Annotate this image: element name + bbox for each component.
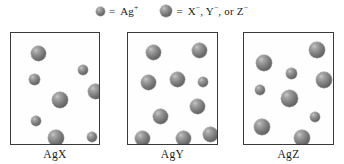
legend-anion-x: X [188, 5, 196, 17]
large-gray-sphere-icon [176, 131, 191, 146]
legend: = Ag+ = X−, Y−, or Z− [0, 0, 344, 22]
large-gray-sphere-icon [170, 72, 185, 87]
large-gray-sphere-icon [192, 43, 207, 58]
large-gray-sphere-icon [203, 127, 218, 142]
legend-label-cation: Ag+ [120, 6, 138, 17]
large-gray-sphere-icon [309, 42, 325, 58]
large-gray-sphere-icon [48, 130, 64, 145]
large-gray-sphere-icon [254, 119, 270, 135]
small-gray-sphere-icon [87, 132, 97, 142]
legend-charge-z: − [244, 3, 248, 12]
legend-label-cation-text: Ag [120, 5, 134, 17]
small-gray-sphere-icon [78, 65, 88, 75]
panel-agz: AgZ [243, 22, 334, 145]
solution-box-agx [10, 32, 100, 145]
large-gray-sphere-icon [141, 75, 156, 90]
large-gray-sphere-icon [281, 90, 298, 107]
solution-panels: AgXAgYAgZ [0, 22, 344, 164]
panel-agy: AgY [127, 22, 218, 145]
legend-charge-cation: + [134, 3, 138, 12]
legend-label-anion: X−, Y−, or Z− [188, 6, 248, 17]
large-gray-sphere-icon [160, 5, 172, 17]
solution-box-agz [243, 32, 334, 145]
legend-entry-anion: = X−, Y−, or Z− [160, 5, 248, 17]
large-gray-sphere-icon [88, 84, 101, 99]
large-gray-sphere-icon [52, 92, 68, 108]
solution-box-agy [127, 32, 218, 145]
small-gray-sphere-icon [255, 85, 265, 95]
small-gray-sphere-icon [29, 74, 40, 85]
large-gray-sphere-icon [31, 46, 46, 61]
panel-agx: AgX [10, 22, 100, 145]
small-gray-sphere-icon [198, 77, 208, 87]
large-gray-sphere-icon [294, 130, 310, 145]
legend-entry-cation: = Ag+ [96, 6, 139, 17]
large-gray-sphere-icon [135, 131, 150, 146]
large-gray-sphere-icon [190, 99, 205, 114]
box-label-agy: AgY [127, 148, 218, 160]
small-gray-sphere-icon [286, 68, 297, 79]
small-gray-sphere-icon [31, 116, 41, 126]
box-label-agx: AgX [10, 148, 100, 160]
large-gray-sphere-icon [146, 45, 161, 60]
legend-anion-z: , or Z [218, 5, 243, 17]
legend-equals-anion: = [176, 6, 183, 17]
small-gray-sphere-icon [96, 7, 105, 16]
large-gray-sphere-icon [316, 72, 332, 88]
legend-equals-cation: = [109, 6, 116, 17]
small-gray-sphere-icon [310, 112, 320, 122]
large-gray-sphere-icon [153, 109, 168, 124]
box-label-agz: AgZ [243, 148, 334, 160]
legend-anion-y: , Y [200, 5, 214, 17]
large-gray-sphere-icon [256, 55, 272, 71]
